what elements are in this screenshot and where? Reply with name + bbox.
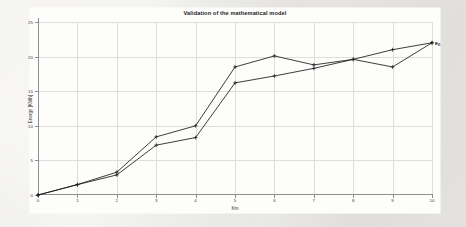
x-tick-label: 3 (155, 198, 157, 203)
x-tick-label: 0 (37, 198, 39, 203)
x-tick-label: 5 (234, 198, 236, 203)
series-end-label-e-r: ER (435, 41, 440, 48)
x-tick-label: 7 (313, 198, 315, 203)
chart-figure: Validation of the mathematical model 051… (30, 8, 440, 213)
y-tick-label: 10 (28, 123, 33, 128)
x-tick-label: 4 (194, 198, 196, 203)
chart-title: Validation of the mathematical model (30, 10, 440, 16)
y-tick-label: 25 (28, 20, 33, 25)
x-tick-label: 2 (116, 198, 118, 203)
y-tick-label: 5 (31, 158, 33, 163)
plot-area: 0510152025 012345678910 ECER Energy [KWh… (38, 22, 432, 195)
x-tick-label: 10 (430, 198, 435, 203)
x-tick-label: 6 (273, 198, 275, 203)
gridline-vertical (432, 22, 433, 195)
x-axis-label: Km (231, 206, 238, 211)
x-tick-label: 8 (352, 198, 354, 203)
x-tick-label: 9 (391, 198, 393, 203)
x-tick-label: 1 (76, 198, 78, 203)
series-lines (38, 22, 432, 195)
y-tick-label: 20 (28, 54, 33, 59)
y-tick-label: 15 (28, 89, 33, 94)
y-axis-label: Energy [KWh] (28, 94, 33, 122)
y-tick-label: 0 (31, 193, 33, 198)
